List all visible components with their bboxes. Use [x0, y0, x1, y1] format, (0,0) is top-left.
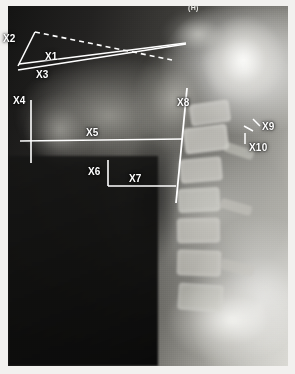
measurement-label-x6: X6	[88, 167, 101, 177]
measurement-label-x4: X4	[13, 96, 26, 106]
measurement-tick-x9	[253, 119, 260, 126]
measurement-label-x8: X8	[177, 98, 190, 108]
measurement-line-x2	[18, 32, 35, 66]
radiograph-figure: (H) X2 X1 X3 X4 X5 X6 X7 X8 X9 X10	[0, 0, 295, 374]
measurement-line-x5	[20, 139, 183, 141]
measurement-label-x1: X1	[45, 52, 58, 62]
measurement-label-x2: X2	[3, 34, 16, 44]
measurement-label-x3: X3	[36, 70, 49, 80]
measurement-label-x5: X5	[86, 128, 99, 138]
measurement-label-x7: X7	[129, 174, 142, 184]
measurement-label-x9: X9	[262, 122, 275, 132]
measurement-label-x10: X10	[249, 143, 267, 153]
orientation-marker-h: (H)	[188, 4, 199, 11]
measurement-tick-x9-stem	[244, 126, 253, 131]
